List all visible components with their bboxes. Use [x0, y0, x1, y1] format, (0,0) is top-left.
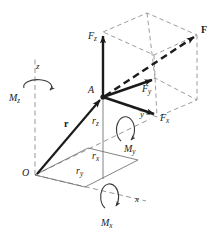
z-axis-label: z: [36, 62, 40, 71]
rx-sub: x: [96, 155, 99, 163]
fx-label: Fx: [160, 113, 169, 125]
force-vector-label: F: [201, 25, 207, 35]
moment-arc-Mz: [24, 80, 52, 90]
mz-label: Mz: [9, 93, 20, 105]
box-top-face: [103, 13, 197, 55]
force-moment-diagram: O A z y x F r Fz Fy Fx rz rx ry Mz My Mx: [0, 0, 220, 237]
origin-label: O: [22, 168, 29, 178]
position-vector-label: r: [64, 119, 68, 129]
moment-arc-My: [116, 117, 134, 141]
position-vector-r: [37, 100, 100, 174]
r-projection-parallelogram: [35, 148, 138, 187]
rx-label: rx: [92, 151, 99, 163]
base-projection: [35, 97, 138, 187]
fy-sub: y: [148, 88, 151, 96]
mx-label: Mx: [101, 218, 113, 230]
fz-label: Fz: [88, 31, 97, 43]
x-axis-label: x: [135, 195, 139, 204]
ry-label: ry: [76, 166, 83, 178]
point-A-marker: [100, 94, 105, 99]
rz-sub: z: [96, 120, 99, 128]
ry-sub: y: [80, 170, 83, 178]
force-component-Fx: [103, 97, 154, 114]
mz-sub: z: [17, 97, 20, 105]
y-axis-label: y: [140, 110, 144, 119]
fy-label: Fy: [142, 84, 151, 96]
diagram-canvas: [0, 0, 220, 237]
moment-arc-Mx: [101, 184, 119, 208]
fx-sub: x: [166, 117, 169, 125]
my-sub: y: [132, 148, 135, 156]
mx-sub: x: [109, 222, 112, 230]
rz-label: rz: [92, 116, 99, 128]
my-label: My: [124, 144, 136, 156]
fz-sub: z: [94, 35, 97, 43]
point-a-label: A: [88, 85, 94, 95]
